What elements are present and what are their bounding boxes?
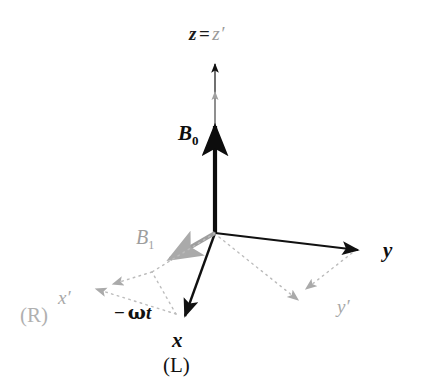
figure-canvas: z=z′ B0 B1 y y′ x x′ (R) (L) −ωt	[0, 0, 421, 392]
lab-frame-tag: (L)	[163, 355, 190, 376]
y-axis-line	[215, 233, 358, 250]
z-prime-axis-label-text: z′	[212, 23, 225, 44]
y-prime-axis-label: y′	[337, 297, 350, 316]
equals-sign: =	[197, 23, 212, 44]
y-axis-label: y	[383, 240, 392, 261]
z-axis-label: z=z′	[189, 24, 225, 43]
minus-sign: −	[114, 302, 125, 323]
x-prime-axis-label: x′	[58, 288, 71, 307]
omega-symbol: ω	[128, 301, 146, 323]
x-prime-guide-connector	[113, 272, 152, 284]
y-axis-group	[215, 233, 358, 250]
x-axis-label: x	[172, 330, 183, 351]
b1-field-label: B1	[136, 227, 154, 251]
b1-field-symbol: B	[136, 226, 148, 248]
b0-field-subscript: 0	[192, 133, 199, 148]
rotation-angle-label: −ωt	[114, 303, 151, 322]
b1-field-subscript: 1	[148, 238, 154, 252]
y-prime-guide-from-origin	[219, 237, 298, 300]
b0-field-symbol: B	[178, 121, 192, 145]
x-prime-guide-base	[152, 272, 176, 314]
y-prime-guide-from-y-tip	[306, 253, 352, 289]
z-axis-label-text: z	[189, 23, 197, 44]
time-symbol: t	[146, 302, 151, 323]
axes-diagram-svg	[0, 0, 421, 392]
rotating-frame-tag: (R)	[20, 305, 48, 326]
b0-field-label: B0	[178, 123, 199, 147]
